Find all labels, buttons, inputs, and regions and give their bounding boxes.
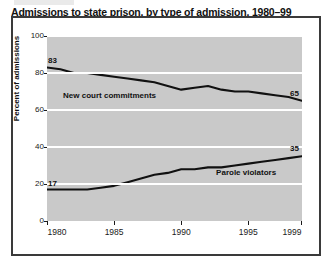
gridline-20 bbox=[47, 183, 302, 185]
gridline-60 bbox=[47, 109, 302, 111]
y-axis-ticks: 020406080100 bbox=[18, 36, 44, 221]
y-tick-label-20: 20 bbox=[22, 180, 44, 188]
gridline-40 bbox=[47, 146, 302, 148]
series-lines bbox=[47, 36, 302, 221]
value-label-new-court-end: 65 bbox=[290, 89, 299, 98]
x-tick-mark-1985 bbox=[114, 221, 115, 225]
y-tick-label-0: 0 bbox=[22, 217, 44, 225]
x-tick-mark-1990 bbox=[181, 221, 182, 225]
y-tick-label-80: 80 bbox=[22, 69, 44, 77]
value-label-new-court-start: 83 bbox=[48, 56, 57, 65]
value-label-parole-end: 35 bbox=[290, 144, 299, 153]
plot-region bbox=[47, 36, 302, 221]
plot-area bbox=[47, 36, 302, 221]
x-axis-ticks: 19801985199019951999 bbox=[47, 221, 302, 243]
x-tick-label-1990: 1990 bbox=[172, 227, 191, 237]
gridline-80 bbox=[47, 72, 302, 74]
x-tick-mark-1995 bbox=[248, 221, 249, 225]
x-tick-label-1995: 1995 bbox=[239, 227, 258, 237]
page-bleed-artifact bbox=[14, 0, 74, 5]
y-tick-label-60: 60 bbox=[22, 106, 44, 114]
x-tick-mark-1999 bbox=[301, 221, 302, 225]
gridline-100 bbox=[47, 36, 302, 37]
x-tick-label-1999: 1999 bbox=[283, 227, 302, 237]
y-tick-label-100: 100 bbox=[22, 32, 44, 40]
series-label-new-court-commitments: New court commitments bbox=[63, 91, 156, 100]
x-tick-label-1985: 1985 bbox=[105, 227, 124, 237]
x-tick-mark-1980 bbox=[47, 221, 48, 225]
y-tick-label-40: 40 bbox=[22, 143, 44, 151]
x-tick-label-1980: 1980 bbox=[48, 227, 67, 237]
series-label-parole-violators: Parole violators bbox=[216, 168, 276, 177]
value-label-parole-start: 17 bbox=[48, 179, 57, 188]
